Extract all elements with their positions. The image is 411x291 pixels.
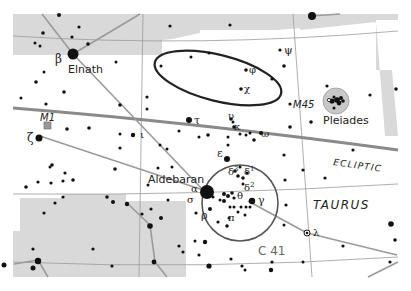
svg-text:δ1: δ1 xyxy=(244,165,255,177)
hyades-circle xyxy=(202,165,278,241)
svg-text:α: α xyxy=(191,183,198,194)
highlight-ellipse xyxy=(149,40,286,116)
svg-text:φ: φ xyxy=(249,64,256,75)
star-tau xyxy=(186,117,192,123)
label-elnath: Elnath xyxy=(68,63,103,76)
svg-text:ρ: ρ xyxy=(201,209,207,222)
pleiades-cluster xyxy=(323,88,349,114)
svg-text:χ: χ xyxy=(244,83,250,94)
label-c41: C 41 xyxy=(258,244,285,258)
label-taurus: TAURUS xyxy=(313,198,370,212)
svg-text:ω: ω xyxy=(261,128,269,139)
label-m45: M45 xyxy=(293,99,314,110)
svg-text:τ: τ xyxy=(194,114,200,127)
svg-text:λ: λ xyxy=(313,227,320,238)
star-zeta xyxy=(36,135,43,142)
svg-text:π: π xyxy=(228,212,235,223)
svg-text:γ: γ xyxy=(258,194,265,207)
svg-text:β: β xyxy=(55,52,62,66)
svg-text:υ: υ xyxy=(228,110,234,121)
star-gamma xyxy=(249,198,255,204)
label-ecliptic: ECLIPTIC xyxy=(333,157,383,174)
taurus-star-chart: Elnath Aldebaran Pleiades M45 M1 C 41 TA… xyxy=(0,0,411,291)
star-lambda xyxy=(304,230,310,236)
svg-text:κ: κ xyxy=(234,121,241,132)
label-m1: M1 xyxy=(40,112,55,123)
svg-text:σ: σ xyxy=(187,194,194,205)
svg-text:θ: θ xyxy=(237,190,243,201)
star-epsilon xyxy=(224,156,230,162)
svg-text:ι: ι xyxy=(140,129,144,140)
svg-text:ζ: ζ xyxy=(27,131,34,145)
m1-crab-nebula-icon xyxy=(44,122,51,129)
svg-text:ψ: ψ xyxy=(284,44,293,57)
svg-text:ε: ε xyxy=(217,147,223,160)
label-pleiades: Pleiades xyxy=(323,114,369,127)
star-elnath xyxy=(68,49,79,60)
